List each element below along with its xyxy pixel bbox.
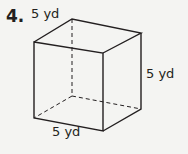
hidden-edge-back [72, 96, 141, 109]
top-face [34, 19, 141, 53]
cube-diagram [0, 0, 188, 154]
hidden-edge-left [34, 96, 72, 118]
right-face [103, 33, 141, 131]
front-face [34, 42, 103, 131]
